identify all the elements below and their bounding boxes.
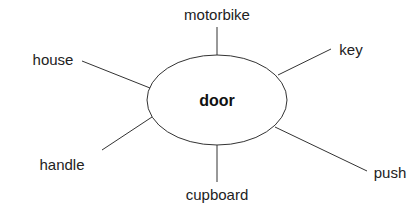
connector-key	[278, 49, 331, 75]
node-motorbike: motorbike	[184, 6, 250, 23]
node-push: push	[374, 164, 407, 181]
node-house: house	[33, 51, 74, 68]
node-handle: handle	[39, 156, 84, 173]
node-cupboard: cupboard	[186, 186, 249, 203]
node-key: key	[339, 41, 362, 58]
center-label: door	[199, 92, 235, 110]
connector-push	[275, 127, 367, 171]
connector-handle	[102, 117, 152, 150]
connector-house	[82, 61, 150, 88]
